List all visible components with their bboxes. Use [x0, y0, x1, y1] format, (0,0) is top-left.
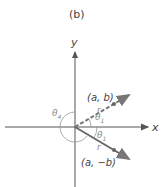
theta4-label: θ4: [52, 109, 61, 120]
point-a-neg-b: [112, 148, 116, 152]
theta1-label-lower: θ1: [97, 131, 106, 142]
theta1-label-upper: θ1: [95, 113, 104, 124]
point-label-a-b: (a, b): [87, 93, 114, 103]
theta-subscript: 4: [58, 113, 62, 120]
theta1-arc-upper: [89, 119, 91, 127]
theta-subscript: 1: [103, 135, 107, 142]
point-label-a-neg-b: (a, −b): [81, 158, 116, 168]
radius-label-lower: r: [97, 143, 101, 152]
theta-subscript: 1: [101, 117, 105, 124]
x-axis-label: x: [152, 122, 159, 133]
y-axis-label: y: [71, 37, 78, 48]
